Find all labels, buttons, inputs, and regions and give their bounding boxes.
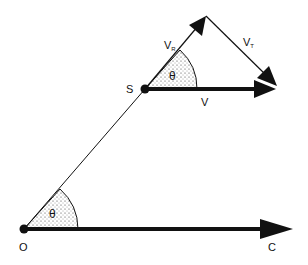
label-vt-sub: T (250, 43, 254, 49)
label-theta-upper: θ (169, 69, 176, 83)
point-s (141, 85, 150, 94)
label-vt: VT (243, 36, 254, 49)
line-o-to-s (24, 89, 145, 229)
label-vr: VR (164, 39, 176, 52)
label-theta-lower: θ (49, 207, 56, 221)
diagram-svg: O S C V VR VT θ θ (0, 0, 308, 265)
point-o (20, 225, 29, 234)
arrowhead-c (260, 219, 293, 239)
label-c: C (268, 241, 276, 253)
label-s: S (126, 83, 133, 95)
velocity-diagram: O S C V VR VT θ θ (0, 0, 308, 265)
label-vr-sub: R (171, 46, 176, 52)
label-v: V (201, 96, 209, 108)
vector-vt (206, 16, 268, 77)
label-o: O (19, 241, 28, 253)
